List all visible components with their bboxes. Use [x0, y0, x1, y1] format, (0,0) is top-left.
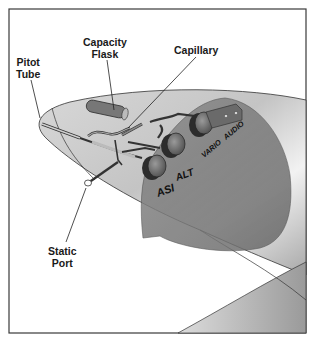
glider-nose-illustration: ASI ALT VARIO AUDIO	[0, 0, 312, 342]
pitot-label-line1: Pitot	[16, 56, 40, 68]
static-label-line2: Port	[48, 257, 77, 269]
capacity-label-line2: Flask	[83, 48, 127, 60]
diagram-canvas: ASI ALT VARIO AUDIO Pitot Tube Capacity …	[0, 0, 312, 342]
pitot-label-line2: Tube	[16, 68, 40, 80]
static-port	[85, 180, 92, 186]
static-label-line1: Static	[48, 245, 77, 257]
static-port-label: Static Port	[48, 245, 77, 269]
capacity-flask-label: Capacity Flask	[83, 36, 127, 60]
pitot-tube-label: Pitot Tube	[16, 56, 40, 80]
capillary-label: Capillary	[174, 44, 218, 56]
capacity-label-line1: Capacity	[83, 36, 127, 48]
capillary-label-text: Capillary	[174, 44, 218, 56]
